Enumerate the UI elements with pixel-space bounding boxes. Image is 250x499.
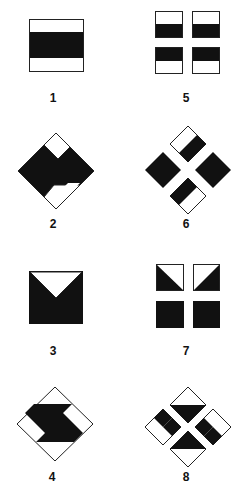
- panel-6: [143, 126, 233, 214]
- panel-7: [156, 264, 220, 328]
- panel-2: [18, 133, 94, 209]
- notched-square-icon: [29, 271, 83, 324]
- panel-label-1: 1: [43, 91, 63, 105]
- panel-label-8: 8: [176, 470, 196, 484]
- panel-5: [155, 11, 220, 74]
- four-triangle-squares-icon: [156, 264, 220, 328]
- notched-diamond-icon: [18, 133, 94, 209]
- four-diamonds-banded-icon: [143, 387, 233, 467]
- panel-label-7: 7: [176, 344, 196, 358]
- panel-label-4: 4: [42, 470, 62, 484]
- panel-label-5: 5: [176, 91, 196, 105]
- panel-label-2: 2: [43, 217, 63, 231]
- zigzag-diamond-icon: [17, 387, 93, 461]
- panel-8: [143, 387, 233, 467]
- panel-label-3: 3: [43, 344, 63, 358]
- banded-square-icon: [29, 19, 84, 72]
- panel-4: [17, 387, 93, 461]
- four-banded-squares-icon: [155, 11, 220, 74]
- panel-3: [29, 271, 83, 324]
- panel-label-6: 6: [176, 217, 196, 231]
- panel-1: [29, 19, 84, 72]
- four-diamonds-cross-icon: [143, 126, 233, 214]
